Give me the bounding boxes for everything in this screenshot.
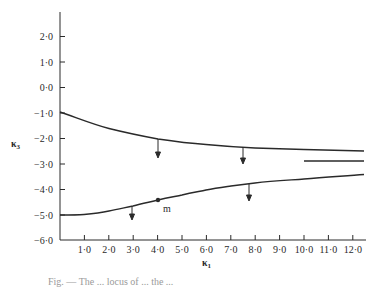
x-tick-label: 1·0: [78, 244, 91, 255]
y-tick-label: 1·0: [40, 57, 53, 68]
arrow-down-icon: [241, 147, 246, 164]
point-m-label: m: [163, 203, 171, 214]
x-ticks: [84, 235, 352, 240]
point-m-marker: [156, 198, 160, 202]
y-tick-label: −4·0: [34, 184, 53, 195]
lower-curve: [60, 175, 364, 216]
x-tick-label: 6·0: [200, 244, 213, 255]
y-axis-label: κ3: [11, 138, 21, 151]
y-tick-label: −1·0: [34, 108, 53, 119]
figure-caption: Fig. — The ... locus of ... the ...: [48, 276, 378, 290]
y-tick-label: −3·0: [34, 159, 53, 170]
x-tick-label: 7·0: [224, 244, 237, 255]
x-tick-label: 9·0: [273, 244, 286, 255]
x-tick-label: 12·0: [344, 244, 362, 255]
arrow-down-icon: [130, 206, 135, 220]
upper-curve: [60, 112, 364, 151]
x-tick-label: 11·0: [319, 244, 337, 255]
x-tick-label: 8·0: [249, 244, 262, 255]
x-tick-label: 2·0: [102, 244, 115, 255]
x-tick-label: 5·0: [175, 244, 188, 255]
x-axis-label: κ1: [202, 257, 212, 270]
y-tick-label: 0·0: [40, 82, 53, 93]
y-tick-labels: 2·0 1·0 0·0 −1·0 −2·0 −3·0 −4·0 −5·0 −6·…: [34, 31, 53, 246]
arrow-down-icon: [156, 139, 161, 158]
x-tick-label: 10·0: [295, 244, 313, 255]
y-ticks: [60, 37, 65, 216]
y-tick-label: 2·0: [40, 31, 53, 42]
x-tick-label: 4·0: [151, 244, 164, 255]
x-tick-labels: 1·0 2·0 3·0 4·0 5·0 6·0 7·0 8·0 9·0 10·0…: [78, 244, 362, 255]
y-tick-label: −5·0: [34, 210, 53, 221]
y-tick-label: −2·0: [34, 133, 53, 144]
x-tick-label: 3·0: [127, 244, 140, 255]
y-tick-label: −6·0: [34, 235, 53, 246]
arrow-down-icon: [247, 184, 252, 201]
